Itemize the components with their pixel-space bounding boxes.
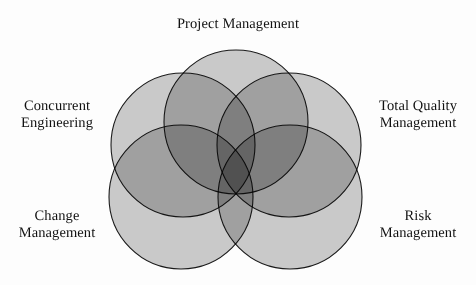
venn-circle-risk-management	[218, 125, 362, 269]
venn-label-risk-management: Risk Management	[362, 208, 474, 242]
venn-circle-group	[109, 50, 362, 269]
venn-label-total-quality-management: Total Quality Management	[362, 98, 474, 132]
venn-label-project-management: Project Management	[0, 16, 476, 33]
venn-diagram-svg	[0, 0, 476, 285]
venn-diagram-figure: Project Management Concurrent Engineerin…	[0, 0, 476, 285]
venn-label-concurrent-engineering: Concurrent Engineering	[4, 98, 110, 132]
venn-label-change-management: Change Management	[4, 208, 110, 242]
